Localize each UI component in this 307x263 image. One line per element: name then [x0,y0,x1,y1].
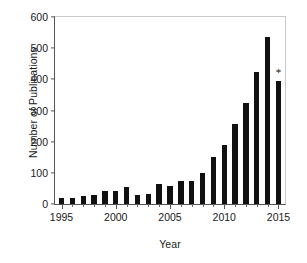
y-axis-tick-label: 200 [30,136,48,148]
x-axis-tick-label: 2005 [158,211,181,223]
x-axis-tick [116,204,117,209]
bar [200,173,205,204]
x-axis-tick-label: 1995 [50,211,73,223]
bar-annotation-asterisk: * [276,67,282,78]
y-axis-tick [51,79,55,80]
x-axis-minor-tick [94,204,95,207]
bar [276,81,281,204]
bar [59,198,64,204]
y-axis-tick-label: 100 [30,167,48,179]
x-axis-tick [62,204,63,209]
bar [156,184,161,204]
bar [232,124,237,204]
bar [91,195,96,204]
bar [135,195,140,204]
bar [243,103,248,204]
x-axis-tick-label: 2000 [104,211,127,223]
bar [265,37,270,204]
bar [167,186,172,204]
y-axis-tick [51,16,55,17]
x-axis-tick [170,204,171,209]
y-axis-tick-label: 0 [42,198,48,210]
bar [146,194,151,204]
x-axis-minor-tick [203,204,204,207]
y-axis-tick-label: 600 [30,11,48,23]
bar [102,191,107,204]
bar [81,196,86,204]
bar [113,191,118,204]
bar [70,198,75,204]
x-axis-minor-tick [246,204,247,207]
bar [189,181,194,204]
x-axis-tick-label: 2015 [267,211,290,223]
bar [124,187,129,204]
bar [211,157,216,204]
x-axis-minor-tick [181,204,182,207]
x-axis-minor-tick [83,204,84,207]
x-axis-minor-tick [192,204,193,207]
y-axis-tick [51,141,55,142]
y-axis-tick-label: 400 [30,73,48,85]
x-axis-minor-tick [159,204,160,207]
x-axis-minor-tick [72,204,73,207]
bar [178,181,183,204]
x-axis-minor-tick [137,204,138,207]
x-axis-title: Year [54,238,286,250]
y-axis-tick [51,48,55,49]
x-axis-tick-label: 2010 [213,211,236,223]
x-axis-tick [224,204,225,209]
plot-area: 0100200300400500600 19952000200520102015… [54,16,286,205]
y-axis-tick-label: 500 [30,42,48,54]
x-axis-minor-tick [148,204,149,207]
x-axis-minor-tick [105,204,106,207]
bar [254,72,259,204]
y-axis-tick [51,110,55,111]
x-axis-minor-tick [268,204,269,207]
y-axis-tick [51,172,55,173]
x-axis-minor-tick [127,204,128,207]
y-axis-tick-label: 300 [30,105,48,117]
x-axis-minor-tick [235,204,236,207]
x-axis-minor-tick [213,204,214,207]
publications-per-year-bar-chart: Number of Publications 01002003004005006… [0,0,307,263]
y-axis-tick [51,203,55,204]
bar [222,145,227,204]
x-axis-tick [278,204,279,209]
x-axis-minor-tick [257,204,258,207]
